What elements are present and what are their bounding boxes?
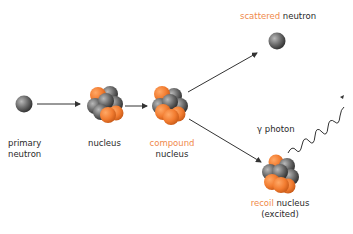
label-scattered-rest: neutron [280, 11, 316, 21]
label-recoil-rest: nucleus [274, 198, 310, 208]
recoil-nucleus-cluster [262, 155, 299, 194]
label-primary-neutron: primary neutron [8, 138, 41, 160]
arrow-compound-to-recoil [189, 119, 261, 162]
label-recoil-line2: (excited) [244, 209, 316, 220]
gamma-photon-arrowhead [340, 95, 344, 99]
label-primary-line2: neutron [8, 149, 41, 160]
gamma-photon-wave [288, 107, 344, 153]
label-gamma-photon: γ photon [257, 124, 295, 135]
label-recoil-highlight: recoil [251, 198, 274, 208]
primary-neutron-ball [16, 96, 33, 113]
label-compound-highlight: compound [148, 138, 196, 149]
arrow-compound-to-scattered [188, 53, 257, 92]
compound-nucleus-cluster [152, 86, 188, 125]
scattered-neutron-ball [269, 33, 286, 50]
label-gamma-text: γ photon [257, 124, 295, 134]
nucleus-cluster [87, 86, 124, 123]
label-primary-line1: primary [8, 138, 41, 149]
label-recoil-nucleus: recoil nucleus (excited) [244, 198, 316, 220]
label-compound-line2: nucleus [148, 149, 196, 160]
label-nucleus-text: nucleus [88, 138, 121, 148]
label-scattered-highlight: scattered [240, 11, 280, 21]
label-compound-nucleus: compound nucleus [148, 138, 196, 160]
label-nucleus: nucleus [88, 138, 121, 149]
label-scattered-neutron: scattered neutron [240, 11, 316, 22]
